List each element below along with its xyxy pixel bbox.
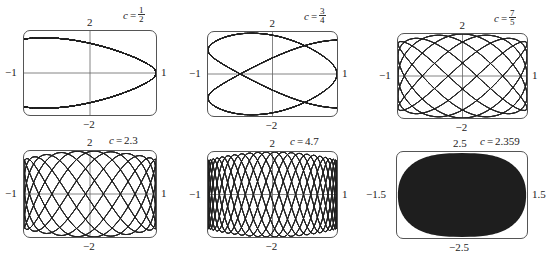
x-min-tick-label: −1 xyxy=(189,68,201,79)
x-min-tick-label: −1 xyxy=(5,188,17,199)
y-max-tick-label: 2 xyxy=(87,17,93,28)
c-symbol: c xyxy=(109,134,114,146)
plot-frame xyxy=(397,33,528,119)
c-symbol: c xyxy=(123,9,128,21)
x-max-tick-label: 1 xyxy=(342,68,348,79)
equals-sign: = xyxy=(116,134,122,146)
plot-frame xyxy=(207,31,338,117)
c-value: 2.3 xyxy=(124,134,138,146)
c-value: 4.7 xyxy=(305,135,319,147)
x-max-tick-label: 1 xyxy=(161,67,167,78)
curve-plot xyxy=(397,152,527,238)
y-max-tick-label: 2.5 xyxy=(453,138,467,149)
plot-frame xyxy=(207,151,338,238)
y-min-tick-label: −2 xyxy=(83,241,95,252)
parameter-label: c=75 xyxy=(494,9,516,26)
y-min-tick-label: −2 xyxy=(83,119,95,130)
equals-sign: = xyxy=(501,12,507,24)
x-max-tick-label: 1 xyxy=(342,189,348,200)
x-min-tick-label: −1 xyxy=(5,67,17,78)
x-min-tick-label: −1 xyxy=(189,189,201,200)
equals-sign: = xyxy=(311,10,317,22)
y-max-tick-label: 2 xyxy=(87,137,93,148)
parameter-label: c=12 xyxy=(123,6,145,23)
y-max-tick-label: 2 xyxy=(460,20,466,31)
x-max-tick-label: 1 xyxy=(161,188,167,199)
curve-plot xyxy=(24,31,156,115)
equals-sign: = xyxy=(297,135,303,147)
c-fraction: 34 xyxy=(319,7,326,24)
y-max-tick-label: 2 xyxy=(270,18,276,29)
curve-plot xyxy=(398,34,527,118)
curve-plot xyxy=(208,32,337,116)
y-min-tick-label: −2 xyxy=(266,241,278,252)
plot-frame xyxy=(23,150,157,238)
y-min-tick-label: −2.5 xyxy=(449,242,469,253)
parameter-label: c=2.359 xyxy=(480,135,520,147)
x-max-tick-label: 1 xyxy=(532,70,538,81)
c-symbol: c xyxy=(290,135,295,147)
y-min-tick-label: −2 xyxy=(456,122,468,133)
c-value: 2.359 xyxy=(495,135,520,147)
plot-frame xyxy=(23,30,157,116)
plot-frame xyxy=(396,151,528,239)
equals-sign: = xyxy=(130,9,136,21)
c-symbol: c xyxy=(494,12,499,24)
curve-plot xyxy=(24,151,156,237)
y-max-tick-label: 2 xyxy=(270,138,276,149)
parameter-label: c=4.7 xyxy=(290,135,319,147)
x-min-tick-label: −1.5 xyxy=(366,189,386,200)
parameter-label: c=2.3 xyxy=(109,134,138,146)
c-fraction: 75 xyxy=(509,9,516,26)
c-fraction: 12 xyxy=(138,6,145,23)
parameter-label: c=34 xyxy=(304,7,326,24)
x-min-tick-label: −1 xyxy=(379,70,391,81)
curve-plot xyxy=(208,152,337,237)
c-symbol: c xyxy=(304,10,309,22)
equals-sign: = xyxy=(487,135,493,147)
x-max-tick-label: 1.5 xyxy=(532,189,546,200)
y-min-tick-label: −2 xyxy=(266,120,278,131)
c-symbol: c xyxy=(480,135,485,147)
